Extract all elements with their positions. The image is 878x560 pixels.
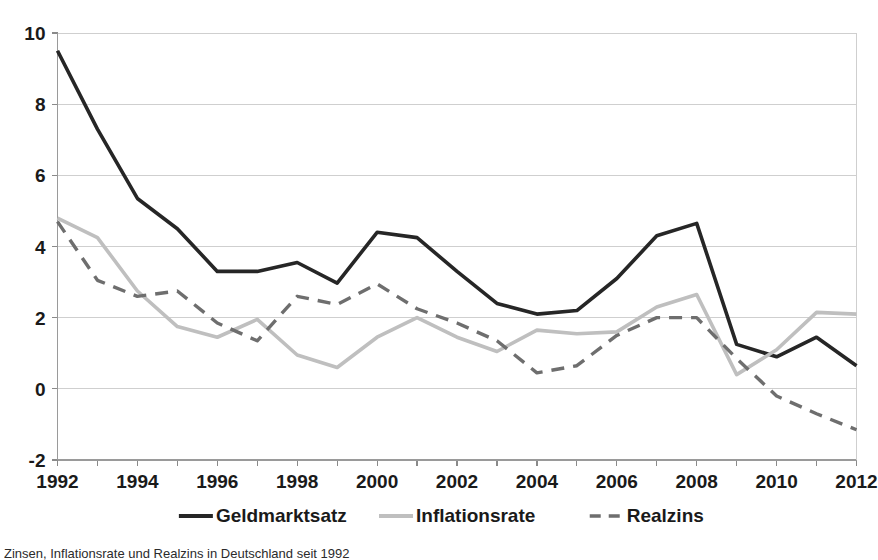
- y-tick-label-10: 10: [24, 23, 45, 44]
- chart-legend: GeldmarktsatzInflationsrateRealzins: [179, 505, 704, 526]
- y-tick-label-4: 4: [35, 237, 46, 258]
- legend-item-geldmarktsatz: Geldmarktsatz: [179, 505, 347, 526]
- chart-figure: -20246810 199219941996199820002002200420…: [0, 0, 878, 560]
- y-tick-label-6: 6: [35, 165, 46, 186]
- legend-label-realzins: Realzins: [627, 505, 704, 526]
- axis-ticks: [52, 33, 857, 466]
- x-tick-label-2000: 2000: [356, 471, 398, 492]
- line-chart: -20246810 199219941996199820002002200420…: [0, 0, 878, 560]
- x-tick-label-1998: 1998: [276, 471, 318, 492]
- y-tick-label--2: -2: [29, 450, 46, 471]
- y-axis-tick-labels: -20246810: [24, 23, 46, 471]
- y-tick-label-0: 0: [35, 379, 46, 400]
- y-tick-label-2: 2: [35, 308, 46, 329]
- legend-label-inflationsrate: Inflationsrate: [416, 505, 535, 526]
- y-tick-label-8: 8: [35, 94, 46, 115]
- x-tick-label-1996: 1996: [196, 471, 238, 492]
- legend-item-realzins: Realzins: [590, 505, 704, 526]
- x-tick-label-2006: 2006: [596, 471, 638, 492]
- legend-label-geldmarktsatz: Geldmarktsatz: [216, 505, 347, 526]
- x-tick-label-2002: 2002: [436, 471, 478, 492]
- legend-item-inflationsrate: Inflationsrate: [379, 505, 535, 526]
- x-tick-label-1992: 1992: [36, 471, 78, 492]
- data-series: [58, 51, 857, 430]
- x-tick-label-2012: 2012: [835, 471, 877, 492]
- series-line-inflationsrate: [58, 218, 857, 375]
- x-tick-label-2004: 2004: [516, 471, 559, 492]
- series-line-geldmarktsatz: [58, 51, 857, 366]
- x-tick-label-2008: 2008: [676, 471, 718, 492]
- figure-caption: Zinsen, Inflationsrate und Realzins in D…: [4, 545, 874, 560]
- x-tick-label-2010: 2010: [755, 471, 797, 492]
- x-axis-tick-labels: 1992199419961998200020022004200620082010…: [36, 471, 877, 492]
- x-tick-label-1994: 1994: [116, 471, 159, 492]
